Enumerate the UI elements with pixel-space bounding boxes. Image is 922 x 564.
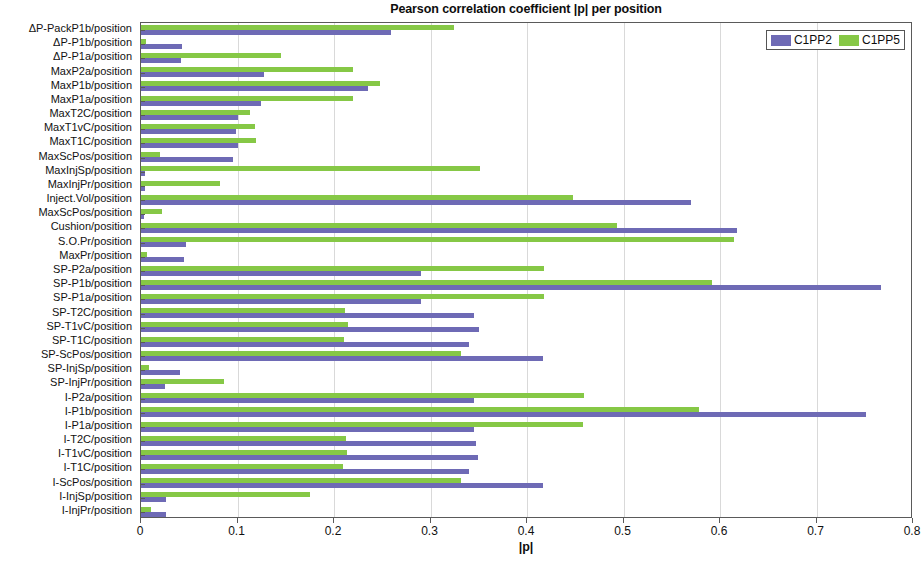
bar-row xyxy=(141,278,911,292)
chart-title: Pearson correlation coefficient |p| per … xyxy=(140,2,912,16)
bar-c1pp2 xyxy=(141,342,469,347)
y-axis-label: MaxP1b/position xyxy=(51,80,132,91)
y-axis-tick-mark xyxy=(141,342,145,343)
bar-c1pp2 xyxy=(141,285,881,290)
bar-c1pp2 xyxy=(141,441,476,446)
bar-row xyxy=(141,377,911,391)
y-axis-tick-mark xyxy=(141,257,145,258)
x-axis-tick-mark xyxy=(719,518,720,523)
y-axis-label: SP-T1vC/position xyxy=(46,321,132,332)
y-axis-label: ΔP-P1b/position xyxy=(53,37,132,48)
x-axis-tick-mark xyxy=(237,518,238,523)
chart-figure: Pearson correlation coefficient |p| per … xyxy=(0,0,922,564)
y-axis-tick-mark xyxy=(141,285,145,286)
y-axis-label: MaxP1a/position xyxy=(51,94,132,105)
bar-row xyxy=(141,264,911,278)
y-axis-tick-mark xyxy=(141,271,145,272)
y-axis-labels: ΔP-PackP1b/positionΔP-P1b/positionΔP-P1a… xyxy=(0,22,136,518)
bar-c1pp2 xyxy=(141,370,180,375)
y-axis-label: SP-InjPr/position xyxy=(50,377,132,388)
y-axis-tick-mark xyxy=(141,73,145,74)
chart-legend[interactable]: C1PP2 C1PP5 xyxy=(766,30,905,50)
bar-row xyxy=(141,391,911,405)
x-axis-tick-label: 0.8 xyxy=(904,524,921,538)
y-axis-tick-mark xyxy=(141,314,145,315)
y-axis-tick-mark xyxy=(141,469,145,470)
legend-label-c1pp5: C1PP5 xyxy=(862,33,900,47)
bar-row xyxy=(141,108,911,122)
y-axis-label: Cushion/position xyxy=(51,221,132,232)
bar-row xyxy=(141,250,911,264)
y-axis-label: I-P1b/position xyxy=(65,406,132,417)
y-axis-tick-mark xyxy=(141,87,145,88)
y-axis-tick-mark xyxy=(141,30,145,31)
y-axis-label: MaxScPos/position xyxy=(38,151,132,162)
bar-row xyxy=(141,505,911,518)
bar-c1pp2 xyxy=(141,200,691,205)
bar-row xyxy=(141,476,911,490)
y-axis-tick-mark xyxy=(141,413,145,414)
bar-c1pp2 xyxy=(141,30,391,35)
bar-row xyxy=(141,420,911,434)
bar-row xyxy=(141,434,911,448)
bar-c1pp5 xyxy=(141,166,480,171)
bar-c1pp5 xyxy=(141,237,734,242)
bar-c1pp2 xyxy=(141,412,866,417)
bar-row xyxy=(141,136,911,150)
bar-c1pp5 xyxy=(141,181,220,186)
bar-row xyxy=(141,80,911,94)
y-axis-label: MaxInjPr/position xyxy=(48,179,132,190)
y-axis-label: I-InjPr/position xyxy=(62,505,132,516)
y-axis-label: I-P1a/position xyxy=(65,420,132,431)
x-axis-tick-mark xyxy=(912,518,913,523)
bar-c1pp2 xyxy=(141,299,421,304)
y-axis-tick-mark xyxy=(141,370,145,371)
x-axis-tick-label: 0.1 xyxy=(228,524,245,538)
bar-c1pp2 xyxy=(141,129,236,134)
x-axis-tick-label: 0.2 xyxy=(325,524,342,538)
bar-c1pp2 xyxy=(141,356,543,361)
y-axis-label: S.O.Pr/position xyxy=(58,236,132,247)
y-axis-label: ΔP-P1a/position xyxy=(53,51,132,62)
y-axis-label: MaxScPos/position xyxy=(38,207,132,218)
x-axis-tick-mark xyxy=(816,518,817,523)
x-axis-tick-label: 0.7 xyxy=(807,524,824,538)
y-axis-label: SP-InjSp/position xyxy=(48,363,132,374)
y-axis-label: MaxT1vC/position xyxy=(44,122,132,133)
y-axis-tick-mark xyxy=(141,356,145,357)
y-axis-label: SP-P1b/position xyxy=(53,278,132,289)
bar-c1pp2 xyxy=(141,86,368,91)
bar-c1pp2 xyxy=(141,455,478,460)
y-axis-tick-mark xyxy=(141,101,145,102)
y-axis-tick-mark xyxy=(141,44,145,45)
bar-c1pp2 xyxy=(141,327,479,332)
bar-c1pp2 xyxy=(141,115,238,120)
y-axis-label: SP-P2a/position xyxy=(53,264,132,275)
y-axis-tick-mark xyxy=(141,228,145,229)
bar-c1pp2 xyxy=(141,271,421,276)
y-axis-label: I-InjSp/position xyxy=(59,491,132,502)
bar-row xyxy=(141,221,911,235)
y-axis-tick-mark xyxy=(141,115,145,116)
x-axis-tick-label: 0 xyxy=(137,524,144,538)
y-axis-label: Inject.Vol/position xyxy=(46,193,132,204)
x-axis-ticks: 00.10.20.30.40.50.60.70.8 xyxy=(140,518,912,540)
y-axis-label: I-T2C/position xyxy=(64,434,132,445)
x-axis-tick-mark xyxy=(430,518,431,523)
bar-row xyxy=(141,363,911,377)
y-axis-tick-mark xyxy=(141,399,145,400)
bar-c1pp5 xyxy=(141,492,310,497)
x-axis-tick-label: 0.4 xyxy=(518,524,535,538)
bar-row xyxy=(141,236,911,250)
y-axis-label: SP-T2C/position xyxy=(52,307,132,318)
bar-c1pp2 xyxy=(141,242,186,247)
bar-row xyxy=(141,207,911,221)
plot-area: C1PP2 C1PP5 xyxy=(140,22,912,518)
y-axis-label: SP-P1a/position xyxy=(53,292,132,303)
legend-entry-c1pp2[interactable]: C1PP2 xyxy=(771,33,832,47)
y-axis-label: MaxPr/position xyxy=(59,250,132,261)
y-axis-tick-mark xyxy=(141,328,145,329)
y-axis-label: I-T1vC/position xyxy=(58,448,132,459)
legend-entry-c1pp5[interactable]: C1PP5 xyxy=(839,33,900,47)
bars-layer xyxy=(141,23,911,517)
